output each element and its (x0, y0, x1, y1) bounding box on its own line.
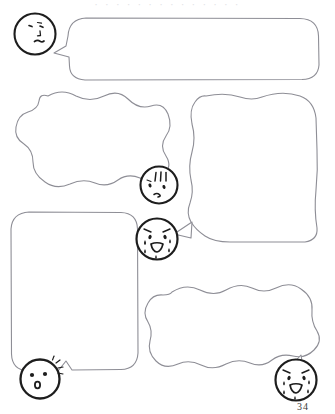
bubble-3-hotspot[interactable] (188, 92, 319, 242)
face-1-hotspot[interactable] (14, 13, 56, 55)
face-2-hotspot[interactable] (140, 166, 178, 204)
bubble-5-hotspot[interactable] (144, 283, 322, 371)
worksheet-page: · · · · · · · · · · · · · · (0, 0, 335, 414)
face-4-hotspot[interactable] (20, 359, 60, 399)
bubble-4-hotspot[interactable] (11, 212, 138, 370)
bubble-1-hotspot[interactable] (69, 18, 319, 80)
interaction-layer (0, 0, 335, 414)
face-5-hotspot[interactable] (275, 359, 317, 401)
face-3-hotspot[interactable] (136, 218, 178, 260)
page-number: 34 (297, 401, 309, 412)
